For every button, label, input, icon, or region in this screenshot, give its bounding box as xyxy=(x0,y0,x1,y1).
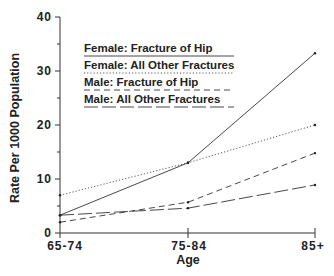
y-tick-label-20: 20 xyxy=(37,118,52,132)
x-axis-title: Age xyxy=(176,253,200,267)
y-axis-title: Rate Per 1000 Population xyxy=(8,53,22,203)
series-female-other-line xyxy=(60,125,315,195)
y-tick-label-10: 10 xyxy=(37,172,52,186)
y-tick-label-40: 40 xyxy=(37,10,52,24)
x-tick-label-65-74: 65-74 xyxy=(47,239,83,253)
legend-label-female-hip: Female: Fracture of Hip xyxy=(84,42,212,54)
legend-label-male-hip: Male: Fracture of Hip xyxy=(84,76,198,88)
data-point xyxy=(59,221,61,223)
line-chart: 40 30 20 10 0 Rate Per 1000 Population 6… xyxy=(0,0,334,276)
legend-label-female-other: Female: All Other Fractures xyxy=(84,59,234,71)
data-point xyxy=(314,52,316,54)
data-point xyxy=(314,184,316,186)
x-tick-label-85plus: 85+ xyxy=(301,239,324,253)
data-point xyxy=(314,152,316,154)
x-axis: 65-74 75-84 85+ Age xyxy=(47,228,325,267)
y-axis: 40 30 20 10 0 Rate Per 1000 Population xyxy=(8,10,60,240)
x-tick-label-75-84: 75-84 xyxy=(171,239,207,253)
data-point xyxy=(187,162,189,164)
y-tick-label-0: 0 xyxy=(44,226,52,240)
data-point xyxy=(314,124,316,126)
legend-label-male-other: Male: All Other Fractures xyxy=(84,93,220,105)
series-male-other-line xyxy=(60,185,315,215)
y-tick-label-30: 30 xyxy=(37,64,52,78)
data-point xyxy=(187,207,189,209)
data-point xyxy=(187,201,189,203)
legend: Female: Fracture of Hip Female: All Othe… xyxy=(84,42,234,107)
data-point xyxy=(59,194,61,196)
data-point xyxy=(59,214,61,216)
